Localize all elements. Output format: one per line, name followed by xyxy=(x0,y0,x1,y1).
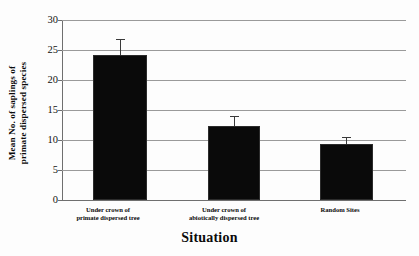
x-category-label-3-line-1: Random Sites xyxy=(295,206,385,214)
y-tick-label-20: 20 xyxy=(32,74,58,85)
y-tick-label-25: 25 xyxy=(32,44,58,55)
y-tick-label-5: 5 xyxy=(32,164,58,175)
y-tickmark-5 xyxy=(58,170,62,171)
bar-under-crown-abiotically-dispersed-tree xyxy=(208,126,260,200)
x-category-label-1: Under crown of primate dispersed tree xyxy=(58,206,158,222)
errorbar-stem-2 xyxy=(234,116,235,126)
errorbar-cap-2 xyxy=(230,116,239,117)
y-tickmark-30 xyxy=(58,20,62,21)
x-category-label-1-line-2: primate dispersed tree xyxy=(58,214,158,222)
bar-random-sites xyxy=(320,144,373,200)
x-category-label-1-line-1: Under crown of xyxy=(58,206,158,214)
errorbar-cap-1 xyxy=(116,39,125,40)
y-tickmark-25 xyxy=(58,50,62,51)
y-tick-label-15: 15 xyxy=(32,104,58,115)
gridline-25 xyxy=(62,50,406,51)
y-tickmark-20 xyxy=(58,80,62,81)
bar-chart: Mean No. of saplings of primate disperse… xyxy=(0,0,419,256)
bar-under-crown-primate-dispersed-tree xyxy=(93,55,147,200)
x-category-label-2: Under crown of abiotically dispersed tre… xyxy=(174,206,274,222)
x-category-label-2-line-2: abiotically dispersed tree xyxy=(174,214,274,222)
plot-area xyxy=(62,20,406,200)
y-tickmark-15 xyxy=(58,110,62,111)
errorbar-cap-3 xyxy=(342,137,351,138)
y-tickmark-0 xyxy=(58,200,62,201)
y-tick-label-10: 10 xyxy=(32,134,58,145)
x-category-label-2-line-1: Under crown of xyxy=(174,206,274,214)
y-axis-title-line-1: Mean No. of saplings of xyxy=(7,62,18,165)
y-tickmark-10 xyxy=(58,140,62,141)
y-tick-label-0: 0 xyxy=(32,194,58,205)
y-axis-title-line-2: primate dispersed species xyxy=(17,62,28,165)
gridline-30 xyxy=(62,20,406,21)
x-axis-line xyxy=(62,200,406,201)
errorbar-stem-1 xyxy=(120,39,121,55)
x-axis-title: Situation xyxy=(0,230,419,246)
y-axis-tick-labels: 30 25 20 15 10 5 0 xyxy=(28,0,58,256)
y-tick-label-30: 30 xyxy=(32,14,58,25)
x-category-label-3: Random Sites xyxy=(295,206,385,214)
